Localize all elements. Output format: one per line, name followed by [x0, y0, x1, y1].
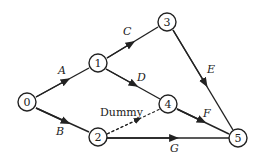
node-1-label: 1: [95, 57, 102, 70]
node-3-label: 3: [164, 16, 171, 29]
node-0-label: 0: [24, 96, 31, 109]
node-2-label: 2: [95, 131, 102, 144]
edge-g-label: G: [170, 142, 179, 155]
edge-e-label: E: [206, 63, 215, 76]
network-diagram: 0 1 2 3 4 5 A B C D E F G Dummy: [0, 0, 259, 161]
edge-f-label: F: [202, 107, 211, 120]
edge-c-label: C: [123, 25, 132, 38]
edge-dummy-label: Dummy: [100, 106, 144, 119]
edge-b-label: B: [55, 125, 64, 138]
node-4-label: 4: [165, 98, 172, 111]
edge-a-label: A: [57, 64, 66, 77]
node-5-label: 5: [235, 132, 242, 145]
edge-d-label: D: [136, 71, 146, 84]
